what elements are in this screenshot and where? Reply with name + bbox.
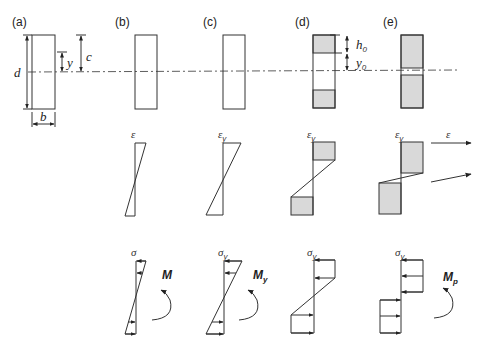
- h0-label: h0: [356, 37, 368, 54]
- strain-arrow-label: ε: [446, 128, 451, 140]
- cross-section-d: h0 y0: [313, 35, 368, 108]
- svg-text:σy: σy: [395, 246, 405, 261]
- strain-diagram-c: εy: [206, 128, 241, 215]
- moment-arrow-icon: [434, 288, 453, 318]
- svg-text:M: M: [162, 268, 173, 282]
- strain-diagram-b: ε: [125, 128, 146, 216]
- neutral-axis-line: [28, 70, 458, 72]
- svg-text:ε: ε: [131, 128, 136, 140]
- width-label: b: [40, 109, 47, 124]
- strain-diagram-e: εy ε: [379, 128, 471, 214]
- svg-text:εy: εy: [395, 128, 404, 143]
- c-label: c: [86, 49, 92, 64]
- strain-diagram-d: εy: [291, 128, 335, 215]
- moment-e: Mp: [434, 270, 458, 318]
- stress-diagram-b: σ: [125, 246, 146, 334]
- moment-c: My: [239, 268, 268, 320]
- strain-growth-arrow-bottom: [431, 174, 471, 182]
- cross-section-c: [223, 35, 245, 109]
- svg-text:εy: εy: [218, 128, 227, 143]
- svg-text:εy: εy: [307, 128, 316, 143]
- cross-section-a: d b y c: [14, 35, 92, 127]
- panel-label-c: (c): [203, 15, 217, 29]
- panel-label-d: (d): [295, 15, 310, 29]
- elastic-plastic-bending-diagram: (a) (b) (c) (d) (e) d b y c h0 y: [0, 0, 490, 350]
- svg-text:σy: σy: [307, 246, 317, 261]
- stress-diagram-e: σy: [380, 246, 423, 333]
- y-label: y: [65, 55, 73, 70]
- moment-arrow-icon: [152, 290, 171, 320]
- moment-arrow-icon: [239, 290, 258, 320]
- svg-text:σy: σy: [218, 246, 228, 261]
- svg-text:σ: σ: [131, 246, 137, 258]
- moment-b: M: [152, 268, 173, 320]
- panel-label-b: (b): [115, 15, 130, 29]
- cross-section-e: [401, 35, 423, 108]
- svg-text:Mp: Mp: [443, 270, 458, 286]
- cross-section-b: [135, 35, 157, 109]
- depth-label: d: [14, 65, 21, 80]
- y0-label: y0: [354, 55, 367, 72]
- svg-text:My: My: [253, 268, 268, 284]
- stress-diagram-c: σy: [206, 246, 242, 334]
- panel-label-a: (a): [12, 15, 27, 29]
- panel-label-e: (e): [383, 15, 398, 29]
- stress-diagram-d: σy: [291, 246, 335, 333]
